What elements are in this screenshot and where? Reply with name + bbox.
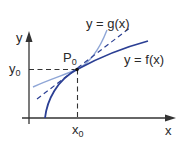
tangent-line: [37, 27, 131, 99]
x0-label: x0: [72, 123, 84, 139]
y-axis-arrow-icon: [26, 31, 33, 42]
point-p0: [75, 68, 79, 72]
curve-g-label: y = g(x): [86, 17, 130, 30]
y-axis-label: y: [16, 31, 23, 44]
x-axis-arrow-icon: [165, 115, 176, 122]
x-axis-label: x: [165, 124, 172, 137]
point-p0-label: P0: [63, 51, 77, 67]
curve-f-label: y = f(x): [124, 53, 164, 66]
y0-label: y0: [9, 62, 21, 78]
